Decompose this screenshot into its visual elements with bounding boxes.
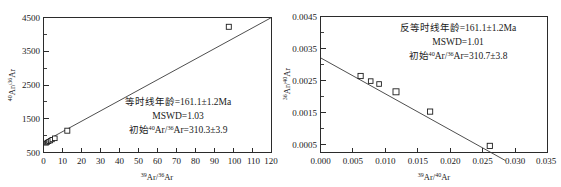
y-tick-label: 1500	[22, 114, 41, 124]
isochron-figure: 500 1500 2500 3500 4500	[0, 0, 561, 187]
y-axis-title-base1: Ar/	[7, 83, 17, 95]
data-point	[393, 89, 399, 95]
y-tick-label: 2500	[22, 80, 41, 90]
x-tick-label: 0.000	[310, 156, 331, 166]
x-axis-major-ticks	[44, 148, 272, 153]
x-tick-label: 110	[247, 156, 261, 166]
y-axis-tick-labels: 500 1500 2500 3500 4500	[22, 13, 41, 158]
y-axis-title-base2: Ar	[282, 68, 292, 77]
regression-line	[44, 18, 272, 143]
x-tick-label: 0.025	[473, 156, 494, 166]
annotation-line-3-mid2: Ar=	[454, 51, 469, 61]
y-tick-label: 4500	[22, 13, 41, 23]
annotation-line-1: 反等时线年龄=161.1±1.2Ma	[400, 22, 517, 33]
x-tick-label: 50	[134, 156, 144, 166]
x-tick-label: 70	[172, 156, 182, 166]
data-point	[377, 82, 382, 87]
y-axis-title-base2: Ar	[7, 69, 17, 78]
annotation-line-2: MSWD=1.01	[432, 37, 484, 47]
x-tick-label: 0.020	[440, 156, 461, 166]
chart-panel-inverse-isochron: 0.0005 0.0015 0.0025 0.0035 0.0045 0.000	[280, 0, 561, 187]
annotation-line-3: 初始40Ar/36Ar=310.3±3.9	[129, 124, 228, 135]
y-tick-label: 0.0015	[292, 108, 317, 118]
y-tick-label: 0.0025	[292, 76, 317, 86]
x-axis-tick-labels: 0.000 0.005 0.010 0.015 0.020 0.025 0.03…	[310, 156, 556, 166]
y-axis-title: 36Ar/40Ar	[282, 68, 292, 100]
x-axis-major-ticks	[321, 148, 548, 153]
x-axis-title: 39Ar/40Ar	[418, 172, 450, 182]
annotation-line-3-prefix: 初始	[129, 124, 149, 135]
x-tick-label: 0.015	[408, 156, 429, 166]
x-tick-label: 10	[58, 156, 68, 166]
annotation-line-1-value: 161.1±1.2Ma	[180, 97, 232, 107]
x-tick-label: 0.035	[536, 156, 557, 166]
y-axis-major-ticks	[44, 18, 49, 153]
x-tick-label: 40	[115, 156, 125, 166]
x-tick-label: 0	[41, 156, 46, 166]
data-point	[226, 24, 231, 29]
y-axis-title-base1: Ar/	[282, 82, 292, 94]
x-axis-title-base1: Ar/	[424, 172, 436, 182]
data-points	[358, 73, 492, 148]
normal-isochron-svg: 500 1500 2500 3500 4500	[0, 0, 281, 187]
data-point	[53, 136, 58, 141]
x-tick-label: 30	[96, 156, 106, 166]
annotation-line-3-prefix: 初始	[409, 50, 429, 61]
y-tick-label: 500	[27, 148, 41, 158]
x-tick-label: 0.030	[505, 156, 526, 166]
x-tick-label: 120	[264, 156, 278, 166]
data-point	[487, 143, 492, 148]
x-tick-label: 20	[77, 156, 87, 166]
x-axis-title: 39Ar/36Ar	[141, 172, 173, 182]
y-axis-tick-labels: 0.0005 0.0015 0.0025 0.0035 0.0045	[292, 12, 317, 150]
data-point	[428, 109, 433, 114]
data-point	[65, 128, 70, 133]
y-axis-major-ticks	[321, 17, 326, 145]
annotation-line-3-value: 310.3±3.9	[189, 125, 228, 135]
annotation-line-1: 等时线年龄=161.1±1.2Ma	[125, 96, 232, 107]
annotation-block: 等时线年龄=161.1±1.2Ma MSWD=1.03 初始40Ar/36Ar=…	[125, 96, 232, 135]
x-tick-label: 0.005	[343, 156, 364, 166]
inverse-isochron-svg: 0.0005 0.0015 0.0025 0.0035 0.0045 0.000	[280, 0, 561, 187]
annotation-line-3-value: 310.7±3.8	[469, 51, 508, 61]
x-tick-label: 90	[210, 156, 220, 166]
annotation-line-3: 初始40Ar/36Ar=310.7±3.8	[409, 50, 508, 61]
regression-line	[321, 58, 506, 161]
data-point	[368, 79, 373, 84]
y-tick-label: 0.0005	[292, 140, 317, 150]
x-tick-label: 0.010	[375, 156, 396, 166]
y-tick-label: 3500	[22, 46, 41, 56]
x-axis-tick-labels: 0 10 20 30 40 50 60 70 80 90 100 110 120	[41, 156, 278, 166]
y-tick-label: 0.0045	[292, 12, 317, 22]
annotation-line-3-mid2: Ar=	[174, 125, 189, 135]
annotation-line-3-mid1: Ar/	[155, 125, 168, 135]
annotation-line-1-prefix: 等时线年龄=	[125, 96, 180, 107]
x-axis-title-base2: Ar	[164, 172, 173, 182]
annotation-line-1-prefix: 反等时线年龄=	[400, 22, 465, 33]
data-point	[358, 73, 363, 78]
annotation-block: 反等时线年龄=161.1±1.2Ma MSWD=1.01 初始40Ar/36Ar…	[400, 22, 517, 61]
annotation-line-3-mid1: Ar/	[435, 51, 448, 61]
x-axis-title-base2: Ar	[441, 172, 450, 182]
annotation-line-2: MSWD=1.03	[152, 111, 204, 121]
x-axis-title-base1: Ar/	[147, 172, 159, 182]
x-tick-label: 100	[228, 156, 242, 166]
annotation-line-1-value: 161.1±1.2Ma	[465, 23, 517, 33]
y-axis-title: 40Ar/36Ar	[7, 69, 17, 101]
y-tick-label: 0.0035	[292, 44, 317, 54]
chart-panel-normal-isochron: 500 1500 2500 3500 4500	[0, 0, 281, 187]
x-tick-label: 60	[153, 156, 163, 166]
x-tick-label: 80	[191, 156, 201, 166]
